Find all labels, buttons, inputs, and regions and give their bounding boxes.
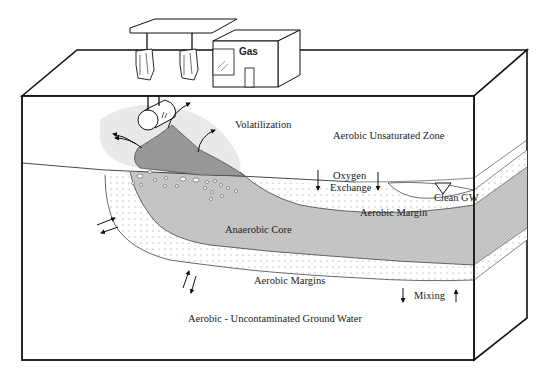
fuel-pump-icon (180, 49, 198, 80)
label-mixing: Mixing (414, 290, 446, 301)
fuel-pump-icon (136, 49, 154, 80)
block-front-face: Volatilization Aerobic Unsaturated Zone … (22, 96, 479, 360)
label-aerobic-margins: Aerobic Margins (254, 275, 325, 286)
canopy (130, 19, 237, 33)
label-exchange: Exchange (330, 182, 372, 193)
gas-sign: Gas (239, 46, 258, 57)
label-uncontaminated-groundwater: Aerobic - Uncontaminated Ground Water (188, 313, 362, 324)
label-aerobic-margin: Aerobic Margin (360, 207, 428, 218)
station-building: Gas (213, 30, 300, 87)
block-right-face (474, 50, 527, 360)
label-oxygen: Oxygen (333, 170, 367, 181)
label-anaerobic-core: Anaerobic Core (225, 224, 292, 235)
label-clean-gw: Clean GW (434, 192, 479, 203)
label-volatilization: Volatilization (235, 119, 292, 130)
label-aerobic-unsaturated-zone: Aerobic Unsaturated Zone (333, 130, 445, 141)
subsurface-plume-diagram: Volatilization Aerobic Unsaturated Zone … (0, 0, 548, 369)
